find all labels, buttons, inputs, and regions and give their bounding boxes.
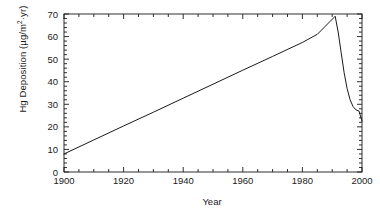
y-tick-label: 20 — [47, 121, 58, 132]
axis-frame — [64, 14, 362, 172]
y-tick-label: 70 — [47, 9, 58, 20]
y-axis-tick-labels: 010203040506070 — [47, 9, 58, 178]
x-axis-tick-labels: 190019201940196019802000 — [53, 175, 372, 186]
y-tick-label: 30 — [47, 99, 58, 110]
y-tick-label: 60 — [47, 31, 58, 42]
plot-area: 190019201940196019802000 010203040506070 — [0, 0, 380, 213]
x-axis-ticks — [64, 14, 362, 172]
y-axis-ticks — [64, 14, 362, 172]
x-tick-label: 1940 — [173, 175, 194, 186]
series-line — [64, 16, 362, 154]
x-tick-label: 1980 — [292, 175, 313, 186]
x-axis-label-wrap: Year — [0, 196, 380, 207]
y-tick-label: 0 — [53, 167, 58, 178]
y-tick-label: 10 — [47, 144, 58, 155]
y-tick-label: 40 — [47, 76, 58, 87]
x-tick-label: 2000 — [351, 175, 372, 186]
data-series-group — [64, 16, 362, 154]
x-tick-label: 1960 — [232, 175, 253, 186]
y-tick-label: 50 — [47, 54, 58, 65]
chart-figure: Hg Deposition (µg/m2·yr) 190019201940196… — [0, 0, 380, 213]
x-tick-label: 1920 — [113, 175, 134, 186]
x-axis-label: Year — [158, 196, 221, 207]
